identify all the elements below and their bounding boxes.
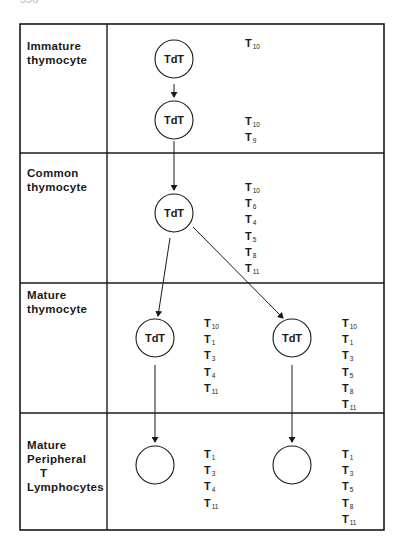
stage-label-line: thymocyte bbox=[27, 53, 87, 67]
antigen-list-mature-left: T10T1T3T4T11 bbox=[204, 316, 219, 397]
antigen-marker: T10 bbox=[245, 114, 260, 130]
stage-label-mature-thymocyte: Mature thymocyte bbox=[27, 288, 87, 316]
antigen-list-immature-1: T10 bbox=[245, 36, 260, 52]
cell-label: TdT bbox=[164, 114, 184, 126]
stage-label-line: Lymphocytes bbox=[27, 480, 104, 494]
antigen-marker: T11 bbox=[204, 496, 218, 512]
antigen-list-peripheral-left: T1T3T4T11 bbox=[204, 447, 218, 512]
antigen-marker: T6 bbox=[245, 196, 260, 212]
antigen-marker: T1 bbox=[204, 332, 219, 348]
antigen-marker: T5 bbox=[342, 479, 356, 495]
cell-mature-left: TdT bbox=[136, 319, 174, 357]
cell-peripheral-right bbox=[273, 446, 311, 484]
stage-label-line: Peripheral bbox=[27, 452, 104, 466]
antigen-marker: T8 bbox=[342, 381, 357, 397]
antigen-list-mature-right: T10T1T3T5T8T11 bbox=[342, 316, 357, 413]
antigen-marker: T1 bbox=[204, 447, 218, 463]
antigen-list-immature-2: T10T9 bbox=[245, 114, 260, 146]
cell-circle bbox=[136, 446, 174, 484]
antigen-marker: T1 bbox=[342, 447, 356, 463]
antigen-marker: T9 bbox=[245, 130, 260, 146]
antigen-marker: T11 bbox=[342, 512, 356, 528]
arrow-common-to-mature-right bbox=[193, 227, 283, 318]
antigen-marker: T5 bbox=[342, 365, 357, 381]
cell-label: TdT bbox=[164, 53, 184, 65]
stage-label-mature-peripheral-t-lymphocytes: Mature Peripheral T Lymphocytes bbox=[27, 438, 104, 494]
antigen-marker: T10 bbox=[342, 316, 357, 332]
antigen-marker: T3 bbox=[342, 463, 356, 479]
antigen-marker: T10 bbox=[204, 316, 219, 332]
antigen-list-common: T10T6T4T5T8T11 bbox=[245, 180, 260, 277]
cell-immature-1: TdT bbox=[155, 40, 193, 78]
cell-immature-2: TdT bbox=[155, 101, 193, 139]
antigen-marker: T5 bbox=[245, 229, 260, 245]
antigen-marker: T4 bbox=[204, 365, 219, 381]
stage-label-line: Common bbox=[27, 166, 87, 180]
antigen-marker: T10 bbox=[245, 36, 260, 52]
cell-peripheral-left bbox=[136, 446, 174, 484]
antigen-marker: T11 bbox=[342, 397, 357, 413]
cell-mature-right: TdT bbox=[273, 319, 311, 357]
stage-label-line: Mature bbox=[27, 288, 87, 302]
antigen-marker: T4 bbox=[204, 479, 218, 495]
antigen-marker: T8 bbox=[245, 245, 260, 261]
cell-common: TdT bbox=[155, 194, 193, 232]
arrow-common-to-mature-left bbox=[158, 238, 170, 316]
stage-label-common-thymocyte: Common thymocyte bbox=[27, 166, 87, 194]
antigen-marker: T1 bbox=[342, 332, 357, 348]
stage-label-line: Mature bbox=[27, 438, 104, 452]
antigen-marker: T3 bbox=[204, 348, 219, 364]
antigen-marker: T3 bbox=[204, 463, 218, 479]
antigen-marker: T11 bbox=[204, 381, 219, 397]
antigen-marker: T8 bbox=[342, 496, 356, 512]
cell-label: TdT bbox=[145, 332, 165, 344]
stage-label-line: thymocyte bbox=[27, 180, 87, 194]
stage-label-line: thymocyte bbox=[27, 302, 87, 316]
antigen-list-peripheral-right: T1T3T5T8T11 bbox=[342, 447, 356, 528]
antigen-marker: T10 bbox=[245, 180, 260, 196]
cell-circle bbox=[273, 446, 311, 484]
stage-label-line: Immature bbox=[27, 39, 87, 53]
stage-label-line: T bbox=[27, 466, 104, 480]
antigen-marker: T4 bbox=[245, 212, 260, 228]
antigen-marker: T3 bbox=[342, 348, 357, 364]
stage-label-immature-thymocyte: Immature thymocyte bbox=[27, 39, 87, 67]
antigen-marker: T11 bbox=[245, 261, 260, 277]
cell-label: TdT bbox=[164, 207, 184, 219]
cell-label: TdT bbox=[282, 332, 302, 344]
